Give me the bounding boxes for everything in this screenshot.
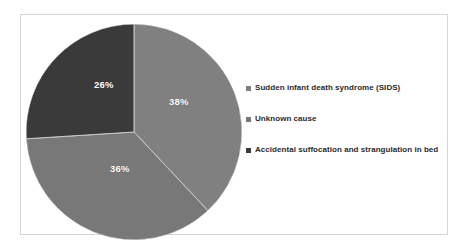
legend-marker-icon-accidental-suffocation xyxy=(246,148,251,153)
legend-item-unknown-cause[interactable]: Unknown cause xyxy=(246,114,446,124)
chart-legend: Sudden infant death syndrome (SIDS) Unkn… xyxy=(246,83,446,176)
legend-label-accidental-suffocation: Accidental suffocation and strangulation… xyxy=(255,145,438,155)
pie-svg xyxy=(26,24,242,240)
pie-plot-area: 38% 36% 26% xyxy=(26,15,251,236)
legend-label-sids: Sudden infant death syndrome (SIDS) xyxy=(255,83,400,93)
pie-slice[interactable] xyxy=(26,24,134,139)
legend-label-unknown-cause: Unknown cause xyxy=(255,114,317,124)
legend-marker-icon-sids xyxy=(246,86,251,91)
chart-frame: 38% 36% 26% Sudden infant death syndrome… xyxy=(20,14,448,235)
slice-value-label-sids: 38% xyxy=(169,96,189,107)
legend-marker-icon-unknown-cause xyxy=(246,117,251,122)
pie-chart xyxy=(26,24,242,240)
legend-item-sids[interactable]: Sudden infant death syndrome (SIDS) xyxy=(246,83,446,93)
slice-value-label-unknown-cause: 36% xyxy=(110,163,130,174)
legend-item-accidental-suffocation[interactable]: Accidental suffocation and strangulation… xyxy=(246,145,446,155)
slice-value-label-accidental-suffocation: 26% xyxy=(94,79,114,90)
pie-slice-group xyxy=(26,24,242,240)
